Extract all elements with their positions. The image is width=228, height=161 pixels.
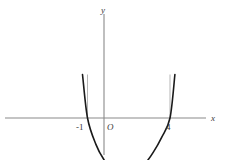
origin-label: O: [107, 123, 114, 132]
x-axis-label: x: [211, 114, 215, 123]
parabola-curve: [83, 75, 175, 161]
x-tick-label-minus-1: -1: [76, 123, 84, 132]
parabola-figure: y x -1 4 O: [0, 0, 228, 160]
graph-canvas: [0, 0, 228, 160]
y-axis-label: y: [101, 6, 105, 15]
x-tick-label-4: 4: [166, 123, 171, 132]
